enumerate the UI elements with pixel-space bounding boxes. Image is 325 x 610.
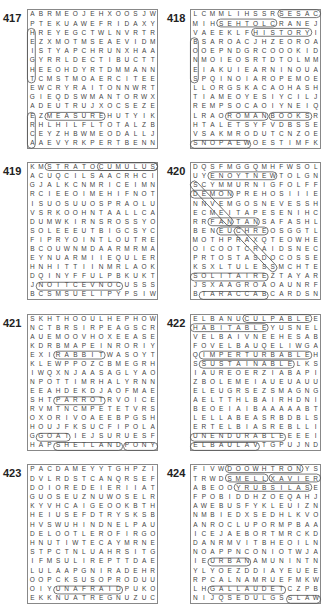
grid-letter: O (294, 65, 303, 74)
grid-letter: A (260, 396, 269, 405)
grid-letter: S (62, 511, 71, 520)
grid-letter: N (294, 281, 303, 290)
grid-letter: S (131, 281, 140, 290)
grid-letter: A (260, 360, 269, 369)
grid-letter: K (303, 360, 312, 369)
grid-letter: I (251, 378, 260, 387)
grid-letter: M (200, 511, 209, 520)
grid-letter: E (268, 585, 277, 594)
grid-letter: N (37, 539, 46, 548)
grid-letter: V (37, 520, 46, 529)
grid-letter: B (200, 483, 209, 492)
grid-letter: N (97, 281, 106, 290)
grid-letter: R (28, 120, 37, 129)
grid-letter: U (71, 290, 80, 299)
grid-letter: R (277, 396, 286, 405)
grid-letter: A (311, 342, 320, 351)
grid-letter: S (123, 511, 132, 520)
grid-letter: S (97, 369, 106, 378)
grid-letter: U (123, 163, 132, 172)
grid-letter: G (114, 226, 123, 235)
grid-letter: D (268, 56, 277, 65)
grid-letter: H (303, 236, 312, 245)
grid-letter: N (311, 557, 320, 566)
grid-letter: C (243, 102, 252, 111)
grid-letter: P (28, 465, 37, 474)
grid-letter: U (62, 557, 71, 566)
grid-letter: N (140, 378, 149, 387)
grid-letter: T (54, 378, 63, 387)
grid-letter: E (37, 529, 46, 538)
grid-letter: C (45, 465, 54, 474)
grid-letter: Y (80, 65, 89, 74)
grid-letter: H (54, 120, 63, 129)
grid-letter: I (243, 405, 252, 414)
grid-letter: E (54, 111, 63, 120)
grid-letter: O (303, 74, 312, 83)
grid-letter: E (148, 236, 157, 245)
grid-letter: Y (277, 102, 286, 111)
grid-letter: X (148, 93, 157, 102)
grid-letter: E (191, 441, 200, 450)
grid-letter: T (268, 529, 277, 538)
grid-letter: P (123, 585, 132, 594)
grid-letter: X (45, 38, 54, 47)
grid-letter: E (303, 566, 312, 575)
grid-letter: F (260, 120, 269, 129)
grid-letter: S (268, 387, 277, 396)
grid-letter: E (277, 432, 286, 441)
grid-letter: O (54, 65, 63, 74)
grid-letter: G (114, 465, 123, 474)
grid-letter: G (114, 369, 123, 378)
grid-letter: G (80, 566, 89, 575)
puzzle-417: 417 ABRMEOJEHXOOSJWPTEKUAWEFRIDAXYHREYEG… (0, 0, 163, 153)
grid-letter: L (140, 493, 149, 502)
grid-letter: I (217, 272, 226, 281)
grid-letter: M (225, 539, 234, 548)
grid-letter: G (268, 594, 277, 603)
grid-letter: D (71, 65, 80, 74)
grid-letter: T (191, 474, 200, 483)
grid-letter: E (114, 333, 123, 342)
grid-letter: L (303, 423, 312, 432)
grid-letter: N (88, 520, 97, 529)
grid-letter: O (62, 333, 71, 342)
grid-letter: U (123, 254, 132, 263)
grid-letter: B (37, 10, 46, 19)
grid-letter: C (140, 208, 149, 217)
grid-letter: T (28, 74, 37, 83)
grid-letter: O (71, 236, 80, 245)
grid-letter: R (268, 414, 277, 423)
grid-letter: S (97, 432, 106, 441)
grid-letter: S (191, 139, 200, 148)
grid-letter: O (45, 493, 54, 502)
grid-letter: T (191, 93, 200, 102)
grid-letter: E (148, 387, 157, 396)
grid-letter: L (234, 28, 243, 37)
grid-letter: S (251, 254, 260, 263)
grid-letter: D (37, 342, 46, 351)
grid-letter: Y (234, 172, 243, 181)
grid-letter: F (191, 493, 200, 502)
grid-letter: T (97, 236, 106, 245)
grid-letter: D (243, 566, 252, 575)
grid-letter: T (217, 396, 226, 405)
grid-letter: R (260, 529, 269, 538)
grid-letter: R (97, 47, 106, 56)
grid-letter: D (105, 65, 114, 74)
grid-letter: G (268, 181, 277, 190)
grid-letter: P (225, 548, 234, 557)
grid-letter: O (37, 483, 46, 492)
grid-letter: G (234, 163, 243, 172)
grid-letter: O (277, 111, 286, 120)
grid-letter: K (243, 84, 252, 93)
grid-letter: R (234, 387, 243, 396)
grid-letter: O (311, 511, 320, 520)
grid-letter: R (140, 405, 149, 414)
grid-letter: O (208, 378, 217, 387)
grid-letter: M (200, 56, 209, 65)
grid-letter: A (208, 65, 217, 74)
grid-letter: A (71, 19, 80, 28)
grid-letter: I (97, 254, 106, 263)
grid-letter: U (286, 502, 295, 511)
